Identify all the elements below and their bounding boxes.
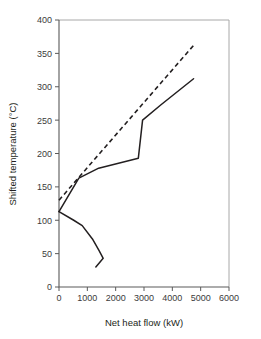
y-axis-title: Shifted temperature (°C) (7, 102, 18, 205)
plot-frame-soft (59, 20, 229, 287)
series-layer (59, 45, 194, 267)
series-grand-composite-lower-branch (59, 212, 103, 267)
y-tick-label: 400 (37, 15, 52, 25)
x-tick-label: 2000 (106, 293, 126, 303)
x-tick-label: 3000 (134, 293, 154, 303)
chart-container: 050100150200250300350400 010002000300040… (0, 0, 261, 339)
y-tick-label: 200 (37, 149, 52, 159)
x-tick-label: 1000 (77, 293, 97, 303)
y-tick-label: 0 (47, 282, 52, 292)
y-axis-tick-marks (55, 20, 59, 287)
y-tick-label: 100 (37, 216, 52, 226)
y-tick-label: 350 (37, 49, 52, 59)
grand-composite-curve-chart: 050100150200250300350400 010002000300040… (0, 0, 261, 339)
x-tick-label: 0 (56, 293, 61, 303)
plot-axes (59, 20, 229, 287)
x-tick-label: 5000 (191, 293, 211, 303)
x-tick-label: 6000 (219, 293, 239, 303)
y-tick-label: 150 (37, 182, 52, 192)
x-axis-title: Net heat flow (kW) (105, 317, 183, 328)
x-axis-tick-marks (59, 287, 229, 291)
series-reference-line (59, 45, 194, 200)
y-tick-label: 250 (37, 116, 52, 126)
y-axis-tick-labels: 050100150200250300350400 (37, 15, 52, 292)
x-axis-tick-labels: 0100020003000400050006000 (56, 293, 239, 303)
series-grand-composite-curve (59, 79, 194, 212)
y-tick-label: 300 (37, 82, 52, 92)
x-tick-label: 4000 (162, 293, 182, 303)
y-tick-label: 50 (42, 249, 52, 259)
